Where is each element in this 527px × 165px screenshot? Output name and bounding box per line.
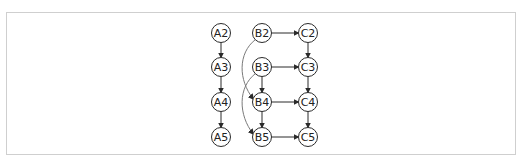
- node-label: B4: [255, 96, 270, 109]
- node-label: A2: [214, 27, 229, 40]
- node-C3: C3: [299, 58, 318, 77]
- node-label: C2: [301, 27, 316, 40]
- node-B3: B3: [253, 58, 272, 77]
- node-A5: A5: [212, 128, 231, 147]
- dependency-graph: A2A3A4A5B2B3B4B5C2C3C4C5: [0, 0, 527, 165]
- node-label: B2: [255, 27, 270, 40]
- node-A4: A4: [212, 93, 231, 112]
- node-label: A3: [214, 61, 229, 74]
- node-label: A5: [214, 131, 229, 144]
- edges-layer: [221, 33, 308, 137]
- node-label: B5: [255, 131, 270, 144]
- node-C5: C5: [299, 128, 318, 147]
- node-label: B3: [255, 61, 270, 74]
- node-label: C4: [301, 96, 316, 109]
- node-label: A4: [214, 96, 229, 109]
- nodes-layer: A2A3A4A5B2B3B4B5C2C3C4C5: [212, 24, 318, 147]
- node-label: C3: [301, 61, 316, 74]
- node-C2: C2: [299, 24, 318, 43]
- node-B5: B5: [253, 128, 272, 147]
- node-B2: B2: [253, 24, 272, 43]
- node-B4: B4: [253, 93, 272, 112]
- node-label: C5: [301, 131, 316, 144]
- node-A3: A3: [212, 58, 231, 77]
- node-C4: C4: [299, 93, 318, 112]
- node-A2: A2: [212, 24, 231, 43]
